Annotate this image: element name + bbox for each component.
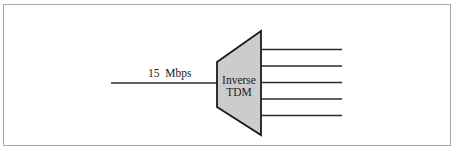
inverse-tdm-diagram: 15 Mbps Inverse TDM <box>0 0 457 151</box>
input-rate-label: 15 Mbps <box>148 67 192 80</box>
block-label-line1: Inverse <box>222 74 256 86</box>
block-label-line2: TDM <box>226 86 252 98</box>
